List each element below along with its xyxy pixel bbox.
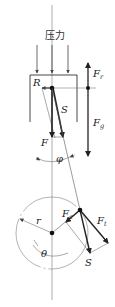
F-label: F	[40, 137, 49, 148]
parallelogram-line	[42, 88, 55, 138]
phi-angle-arc	[36, 157, 70, 162]
r-label: r	[36, 215, 42, 226]
pressure-arrows	[37, 45, 68, 73]
crank-center	[50, 231, 55, 236]
Fr-label: Fr	[92, 68, 104, 81]
S-label-top: S	[61, 104, 68, 115]
pressure-label: 压力	[45, 29, 65, 41]
Fc-label: Fc	[61, 208, 73, 221]
Ft-label: Ft	[96, 215, 107, 228]
phi-label: φ	[56, 153, 63, 164]
crank-mechanism-force-diagram: 压力 R F S Fr Fg φ r θ	[0, 0, 115, 307]
crank-pin	[78, 208, 83, 213]
parallelogram-line	[90, 243, 108, 253]
force-point	[86, 86, 90, 90]
Fg-label: Fg	[92, 117, 104, 130]
theta-angle-arc	[33, 245, 68, 256]
theta-label: θ	[41, 248, 47, 259]
R-label: R	[32, 77, 41, 88]
S-label-bottom: S	[85, 257, 92, 268]
